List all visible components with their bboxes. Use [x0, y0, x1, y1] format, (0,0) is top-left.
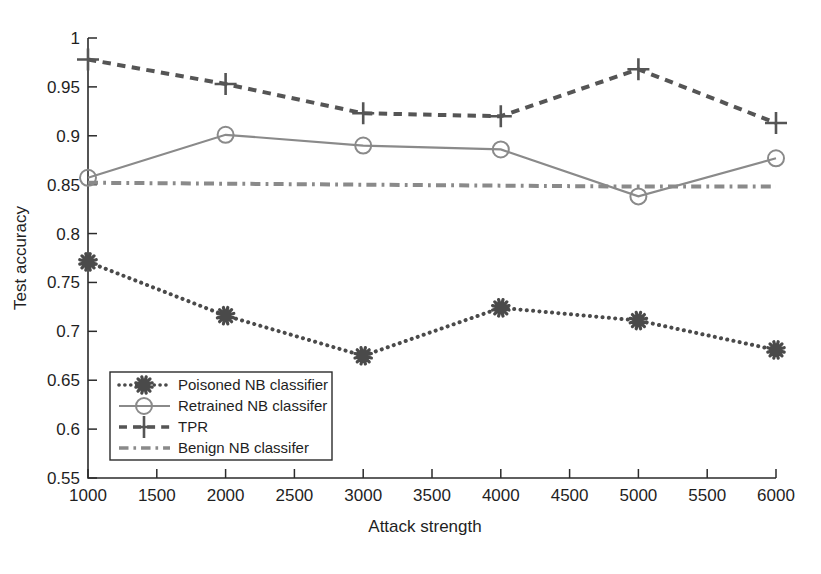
y-tick-label: 0.85 [47, 176, 80, 195]
series-3 [88, 183, 776, 187]
data-point-asterisk [768, 342, 784, 358]
series-line [88, 262, 776, 356]
data-point-plus [77, 49, 99, 71]
figure-container: 0.550.60.650.70.750.80.850.90.951 100015… [0, 0, 821, 574]
x-tick-label: 3500 [413, 486, 451, 505]
y-tick-label: 0.7 [56, 322, 80, 341]
legend-label: Benign NB classifer [178, 439, 309, 456]
y-tick-label: 0.9 [56, 127, 80, 146]
series-line [88, 183, 776, 187]
legend-label: Poisoned NB classifier [178, 376, 328, 393]
x-tick-label: 4000 [482, 486, 520, 505]
series-line [88, 60, 776, 124]
y-tick-label: 0.8 [56, 225, 80, 244]
x-tick-label: 1500 [138, 486, 176, 505]
x-tick-label: 5500 [688, 486, 726, 505]
chart-legend: Poisoned NB classifierRetrained NB class… [110, 372, 332, 460]
legend-item-1[interactable]: Retrained NB classifer [119, 397, 327, 414]
data-point-asterisk [493, 300, 509, 316]
data-point-asterisk [136, 377, 152, 393]
data-point-plus [627, 58, 649, 80]
data-point-plus [765, 112, 787, 134]
y-tick-label: 0.6 [56, 420, 80, 439]
x-tick-label: 6000 [757, 486, 795, 505]
y-tick-label: 1 [71, 29, 80, 48]
series-1 [80, 127, 784, 205]
x-tick-label: 2000 [207, 486, 245, 505]
series-0 [80, 254, 784, 364]
data-point-asterisk [355, 348, 371, 364]
series-group [77, 49, 787, 364]
x-axis-ticks: 1000150020002500300035004000450050005500… [69, 469, 795, 505]
data-point-plus [215, 73, 237, 95]
x-tick-label: 4500 [551, 486, 589, 505]
x-tick-label: 3000 [344, 486, 382, 505]
chart-canvas: 0.550.60.650.70.750.80.850.90.951 100015… [0, 0, 821, 574]
legend-label: Retrained NB classifer [178, 397, 327, 414]
data-point-plus [352, 102, 374, 124]
data-point-asterisk [80, 254, 96, 270]
x-tick-label: 1000 [69, 486, 107, 505]
data-point-asterisk [630, 312, 646, 328]
data-point-asterisk [217, 307, 233, 323]
x-tick-label: 2500 [275, 486, 313, 505]
x-axis-title: Attack strength [368, 517, 481, 536]
y-tick-label: 0.65 [47, 371, 80, 390]
legend-label: TPR [178, 418, 208, 435]
y-tick-label: 0.75 [47, 273, 80, 292]
y-tick-label: 0.95 [47, 78, 80, 97]
x-tick-label: 5000 [619, 486, 657, 505]
series-2 [77, 49, 787, 135]
data-point-plus [490, 105, 512, 127]
y-axis-title: Test accuracy [11, 206, 30, 310]
legend-item-0[interactable]: Poisoned NB classifier [119, 376, 328, 393]
